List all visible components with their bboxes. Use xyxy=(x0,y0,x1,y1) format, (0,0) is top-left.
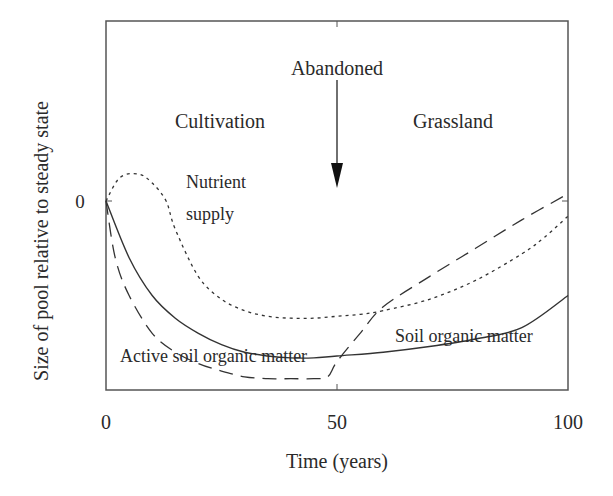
annotation-nutrient: Nutrient xyxy=(186,172,246,192)
annotation-abandoned: Abandoned xyxy=(291,57,383,79)
annotation-cultivation: Cultivation xyxy=(175,110,265,132)
y-axis-label: Size of pool relative to steady state xyxy=(30,101,53,381)
chart-canvas: 0 0 50 100 Time (years) Size of pool rel… xyxy=(0,0,613,496)
x-tick-label-0: 0 xyxy=(101,411,111,433)
annotation-soil-organic-matter: Soil organic matter xyxy=(395,326,533,346)
x-tick-label-100: 100 xyxy=(553,411,583,433)
abandoned-arrow-head-icon xyxy=(331,163,343,188)
annotation-supply: supply xyxy=(186,204,234,224)
annotation-active-soil-organic-matter: Active soil organic matter xyxy=(120,346,307,366)
annotation-grassland: Grassland xyxy=(413,110,493,132)
x-axis-label: Time (years) xyxy=(286,450,388,473)
series-nutrient-supply xyxy=(106,174,568,319)
x-tick-label-50: 50 xyxy=(327,411,347,433)
y-tick-label-0: 0 xyxy=(75,191,85,212)
